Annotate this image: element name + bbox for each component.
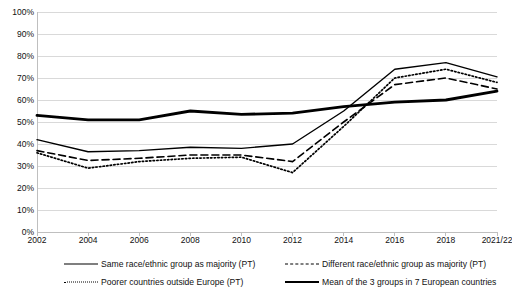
legend-swatch-dashed-icon	[285, 259, 319, 269]
y-axis-tick-label: 60%	[2, 96, 34, 105]
series-line	[37, 63, 497, 152]
x-axis-tick-label: 2018	[436, 236, 455, 245]
legend-swatch-solid-thin-icon	[64, 259, 98, 269]
x-axis: 2002200420062008201020122014201620182021…	[0, 236, 503, 252]
x-axis-tick-label: 2002	[28, 236, 47, 245]
legend-label: Different race/ethnic group as majority …	[322, 259, 486, 269]
y-axis-tick-label: 40%	[2, 140, 34, 149]
y-axis-tick-label: 10%	[2, 206, 34, 215]
x-axis-tick-label: 2014	[334, 236, 353, 245]
x-axis-tick-label: 2004	[79, 236, 98, 245]
x-axis-tick-label: 2010	[232, 236, 251, 245]
legend-item-different-race: Different race/ethnic group as majority …	[285, 259, 486, 269]
y-axis-tick-label: 50%	[2, 118, 34, 127]
y-axis-tick-label: 80%	[2, 52, 34, 61]
x-axis-tick-label: 2012	[283, 236, 302, 245]
x-axis-tick-label: 2021/22	[482, 236, 512, 245]
legend-item-mean-7-countries: Mean of the 3 groups in 7 European count…	[285, 277, 496, 287]
y-axis-tick-label: 20%	[2, 184, 34, 193]
y-axis-tick-label: 70%	[2, 74, 34, 83]
legend-item-poorer-countries: Poorer countries outside Europe (PT)	[64, 277, 243, 287]
y-axis: 0%10%20%30%40%50%60%70%80%90%100%	[0, 0, 34, 300]
legend-label: Mean of the 3 groups in 7 European count…	[322, 277, 496, 287]
x-axis-tick-label: 2006	[130, 236, 149, 245]
chart-legend: Same race/ethnic group as majority (PT) …	[42, 258, 497, 298]
legend-label: Same race/ethnic group as majority (PT)	[101, 259, 255, 269]
x-axis-tick-label: 2016	[385, 236, 404, 245]
y-axis-tick-label: 100%	[2, 8, 34, 17]
legend-swatch-dotted-icon	[64, 277, 98, 287]
legend-swatch-solid-thick-icon	[285, 277, 319, 287]
legend-item-same-race: Same race/ethnic group as majority (PT)	[64, 259, 255, 269]
y-axis-tick-label: 30%	[2, 162, 34, 171]
legend-label: Poorer countries outside Europe (PT)	[101, 277, 243, 287]
series-line	[37, 91, 497, 120]
y-axis-tick-label: 90%	[2, 30, 34, 39]
x-axis-tick-label: 2008	[181, 236, 200, 245]
